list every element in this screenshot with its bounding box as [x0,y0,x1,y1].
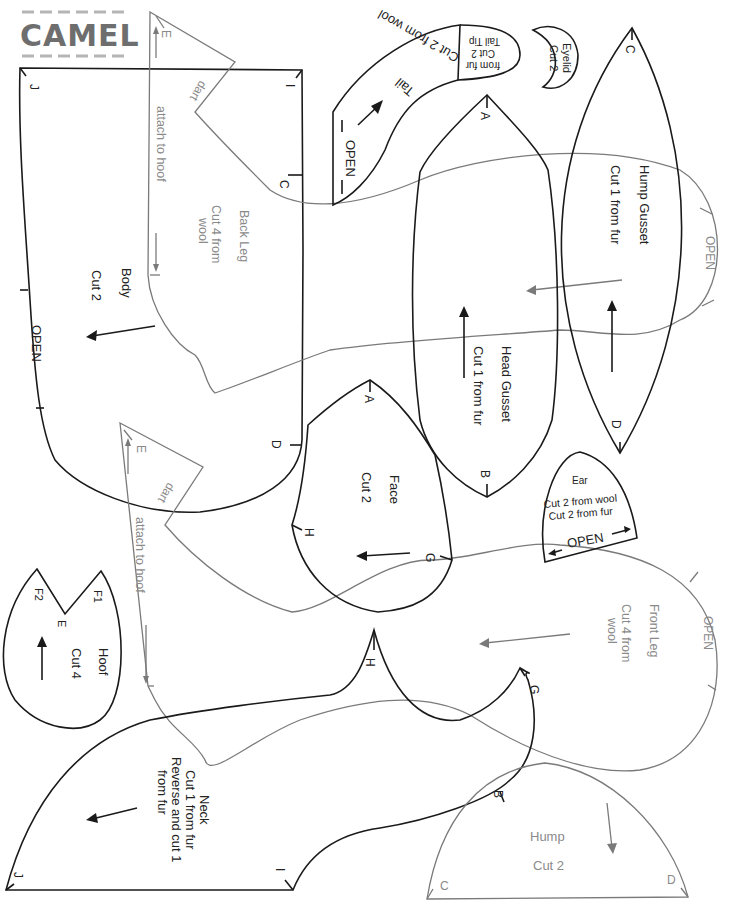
piece-tail: Cut 2 from wool Tail OPEN Tail Tip Cut 2… [333,7,520,205]
mark-c: C [440,879,449,893]
mark-a: A [362,395,376,403]
front-leg-open-label: OPEN [701,616,715,650]
neck-cut-label: Cut 1 from fur [183,770,198,850]
hump-gusset-label: Hump Gusset [637,165,652,245]
attach-label: attach to hoof [133,517,147,593]
piece-hump: C D Hump Cut 2 [427,763,688,899]
hump-cut-label: Cut 2 [533,858,564,873]
face-cut-label: Cut 2 [359,472,374,503]
mark-g: G [527,685,541,694]
neck-cut2-label: Reverse and cut 1 [169,757,184,863]
head-gusset-label: Head Gusset [499,346,514,422]
title-block: CAMEL [20,12,140,56]
arrow-up-icon [125,438,131,446]
mark-b: B [491,790,505,798]
body-label: Body [119,268,134,298]
mark-g: G [423,553,437,562]
neck-label: Neck [197,795,212,825]
hoof-cut-label: Cut 4 [69,648,84,679]
mark-f2: F2 [33,588,45,601]
body-cut-label: Cut 2 [89,270,104,301]
front-leg-cut-label: Cut 4 from [619,604,633,662]
grain-arrow-icon [86,813,98,823]
piece-ear: Ear Cut 2 from wool Cut 2 from fur OPEN [543,452,637,562]
mark-e: E [56,620,68,627]
arrow-down-icon [153,264,159,272]
mark-h: H [302,528,316,537]
arrow-up-icon [153,26,159,34]
tail-cut-label: Cut 2 from wool [375,7,461,66]
grain-arrow-icon [356,551,367,561]
eyelid-cut-label: Cut 2 [548,45,560,71]
front-leg-cut2-label: wool [605,617,619,644]
piece-back-leg-lower: E dart attach to hoof Front Leg Cut 4 fr… [120,423,717,771]
back-leg-cut2-label: wool [196,217,210,244]
camel-pattern-sheet: CAMEL J I C D Body Cut 2 OPEN E dart att… [0,0,734,904]
grain-arrow-icon [479,638,489,648]
mark-a: A [478,112,492,120]
face-label: Face [387,475,402,504]
mark-h: H [363,658,377,667]
tail-tip-cut-label: Cut 2 [471,48,495,59]
ear-label: Ear [572,475,588,486]
mark-i: I [273,868,287,871]
mark-c: C [623,45,637,54]
front-leg-label: Front Leg [647,604,661,658]
mark-f1: F1 [92,590,104,603]
mark-d: D [609,420,623,429]
grain-arrow-icon [37,636,47,647]
tail-open-label: OPEN [343,140,358,177]
tail-label: Tail [392,75,417,99]
hump-gusset-cut-label: Cut 1 from fur [608,165,623,245]
body-open-label: OPEN [29,325,44,362]
dart-label: dart [187,79,210,104]
back-leg-cut-label: Cut 4 from [209,205,223,263]
tail-tip-cut2-label: from fur [465,60,500,71]
grain-arrow-icon [459,306,469,317]
grain-arrow-icon [86,330,97,341]
arrow-left-icon [548,549,556,556]
mark-j: J [11,872,25,878]
grain-arrow-icon [607,843,617,854]
open-label: OPEN [703,236,717,270]
mark-c: C [277,180,291,189]
mark-i: I [283,84,297,87]
piece-hoof: F2 F1 E Hoof Cut 4 [3,569,121,728]
grain-arrow-icon [607,300,617,311]
hump-label: Hump [530,829,565,844]
back-leg-label: Back Leg [237,210,251,262]
hoof-label: Hoof [96,648,111,676]
mark-e: E [159,30,173,38]
arrow-right-icon [624,526,631,533]
mark-b: B [478,470,492,478]
mark-d: D [269,440,283,449]
head-gusset-cut-label: Cut 1 from fur [471,346,486,426]
tail-tip-label: Tail Tip [468,36,500,47]
grain-arrow-icon [526,285,536,295]
piece-eyelid: Eyelid Cut 2 [533,27,578,88]
attach-label: attach to hoof [154,106,168,182]
mark-j: J [27,84,41,90]
mark-e: E [134,445,148,453]
dart-label: dart [155,481,178,506]
mark-d: D [667,873,676,887]
piece-neck: H G B I J Neck Cut 1 from fur Reverse an… [6,630,541,890]
page-title: CAMEL [20,18,140,53]
eyelid-label: Eyelid [561,43,573,73]
piece-hump-gusset: C D Hump Gusset Cut 1 from fur [561,28,681,453]
neck-cut3-label: from fur [155,770,170,815]
